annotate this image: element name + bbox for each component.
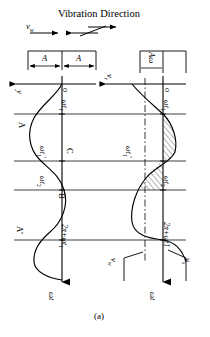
right-v-axis-label: vr: [103, 74, 114, 80]
right-wt-axis-label: ωt: [149, 292, 158, 300]
figure-caption: (a): [94, 312, 104, 321]
amplitude-omega-label: Aω: [148, 52, 157, 63]
point-label-A: A: [18, 122, 27, 128]
header-group: [30, 26, 116, 36]
point-label-A-prime: A': [16, 226, 25, 234]
point-label-C: C: [66, 148, 75, 154]
right-tick-wt1-prime: ωt1': [122, 146, 132, 158]
left-origin-label: o: [62, 88, 71, 92]
right-tick-wt2: ωt2: [160, 176, 170, 187]
left-tick-wt1: ωt1: [58, 100, 68, 111]
right-tick-wt1: ωt1: [160, 100, 170, 111]
left-wt-axis-label: ωt: [48, 292, 57, 300]
bracket-label-vs: vs: [181, 258, 192, 264]
right-origin-label: o: [164, 88, 173, 92]
vw-label: vw: [26, 22, 34, 33]
left-tick-wt1-prime: ωt1': [36, 146, 46, 158]
amplitude-bar-left: [28, 51, 96, 70]
bracket-label-vw: vw: [107, 258, 118, 266]
left-y-axis-label: y: [16, 90, 25, 94]
right-tick-2pi-wt1: 2π+ωt1: [162, 222, 170, 247]
figure-title: Vibration Direction: [58, 9, 140, 20]
left-tick-wt2: ωt2: [36, 176, 46, 187]
vibration-cutting-figure: [0, 0, 210, 337]
velocity-curve-group: [132, 84, 186, 262]
amplitude-label-left: A: [42, 54, 47, 63]
point-label-B: B: [58, 193, 67, 199]
bottom-brackets: [124, 250, 186, 281]
left-plot-axes: [16, 76, 96, 282]
left-tick-2pi-wt1: 2π+ωt1: [58, 224, 68, 248]
amplitude-label-right: A: [76, 54, 81, 63]
